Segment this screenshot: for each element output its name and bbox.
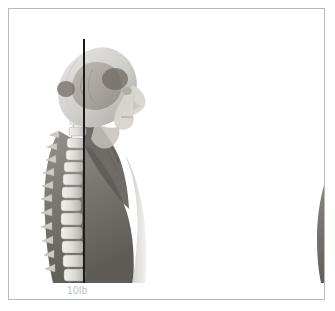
anatomy-illustration-upright: [29, 27, 159, 283]
anatomy-illustration-forward: [307, 27, 326, 283]
cervical-region: [91, 123, 120, 149]
plumb-line-upright: [83, 39, 85, 283]
orbit: [122, 87, 132, 95]
occipital-lobe-marker: [57, 81, 75, 97]
posture-panel-forward: 40lb: [167, 9, 325, 299]
posture-panel-upright: 10lb: [9, 9, 167, 299]
illustration-frame: 10lb: [8, 8, 325, 300]
cerebellum: [102, 68, 128, 90]
weight-label-upright: 10lb: [67, 285, 88, 296]
torso-soft-tissue: [317, 155, 326, 283]
